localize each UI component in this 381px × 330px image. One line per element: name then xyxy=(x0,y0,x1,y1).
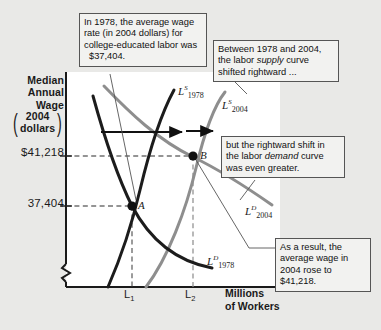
curve-label-demand-2004-sub: 2004 xyxy=(256,211,272,220)
callout-box-2004-wage: As a result, the average wage in 2004 ro… xyxy=(275,238,371,292)
callout-2-emphasis-supply: supply xyxy=(257,55,284,65)
y-axis-label-paren-group: ( 2004 dollars ) xyxy=(4,111,64,134)
callout-box-demand-shift: but the rightward shift in the labor dem… xyxy=(221,136,345,178)
x-tick-l2-sub: 2 xyxy=(191,294,195,303)
curve-label-supply-2004: LS2004 xyxy=(222,98,248,114)
curve-label-supply-1978-sub: 1978 xyxy=(188,91,204,100)
callout-2-line-2: the labor supply curve xyxy=(218,55,334,66)
y-axis-label-units: dollars xyxy=(20,123,55,135)
callout-2-post: curve xyxy=(284,55,309,65)
callout-box-1978-wage: In 1978, the average wage rate (in 2004 … xyxy=(79,13,207,67)
equilibrium-point-b xyxy=(188,151,197,160)
curve-label-supply-1978: LS1978 xyxy=(178,84,204,100)
callout-2-line-1: Between 1978 and 2004, xyxy=(218,44,334,55)
chart-figure: Median Annual Wage ( 2004 dollars ) $41,… xyxy=(0,0,381,330)
curve-demand-1978 xyxy=(93,96,212,268)
callout-1-line-3: college-educated labor was xyxy=(84,40,202,51)
curve-label-demand-1978-sub: 1978 xyxy=(218,261,234,270)
callout-2-line-3: shifted rightward ... xyxy=(218,67,334,78)
curve-label-supply-2004-sub: 2004 xyxy=(232,105,248,114)
callout-2-pre: the labor xyxy=(218,55,257,65)
callout-1-line-1: In 1978, the average wage xyxy=(84,17,202,28)
callout-4-line-2: average wage in xyxy=(280,253,366,264)
callout-3-line-3: was even greater. xyxy=(226,163,340,174)
curve-label-demand-1978: LD1978 xyxy=(207,254,234,270)
callout-3-line-2: the labor demand curve xyxy=(226,151,340,162)
guide-lines xyxy=(66,156,193,287)
equilibrium-label-b: B xyxy=(200,149,207,161)
x-tick-l1-sub: 1 xyxy=(130,294,134,303)
y-axis-label-line-2: Annual xyxy=(4,86,64,98)
x-tick-label-l1: L1 xyxy=(124,288,134,303)
callout-3-emphasis-demand: demand xyxy=(265,151,299,161)
leader-line-callout-3 xyxy=(240,180,255,200)
y-axis-label: Median Annual Wage ( 2004 dollars ) xyxy=(4,74,64,134)
y-axis-break-icon xyxy=(62,264,70,282)
x-axis-label-line-2: of Workers xyxy=(225,300,315,313)
callout-1-line-2: rate (in 2004 dollars) for xyxy=(84,28,202,39)
callout-3-pre: the labor xyxy=(226,151,265,161)
axes xyxy=(62,72,301,287)
callout-box-supply-shift: Between 1978 and 2004, the labor supply … xyxy=(213,40,339,82)
shift-arrows xyxy=(101,131,213,132)
x-tick-label-l2: L2 xyxy=(185,288,195,303)
y-tick-label-41218: $41,218 xyxy=(0,146,64,158)
y-tick-label-37404: 37,404 xyxy=(0,197,64,209)
callout-4-line-4: $41,218. xyxy=(280,276,366,287)
paren-close: ) xyxy=(57,113,62,133)
callout-4-line-1: As a result, the xyxy=(280,242,366,253)
curve-label-demand-2004: LD2004 xyxy=(245,204,272,220)
equilibrium-label-a: A xyxy=(138,199,145,211)
leader-line-callout-1 xyxy=(110,74,136,200)
equilibrium-point-a xyxy=(127,201,136,210)
callout-3-line-1: but the rightward shift in xyxy=(226,140,340,151)
paren-open: ( xyxy=(13,113,18,133)
y-axis-label-line-1: Median xyxy=(4,74,64,86)
callout-3-post: curve xyxy=(298,151,323,161)
callout-4-line-3: 2004 rose to xyxy=(280,265,366,276)
callout-1-line-4: $37,404. xyxy=(84,51,202,62)
